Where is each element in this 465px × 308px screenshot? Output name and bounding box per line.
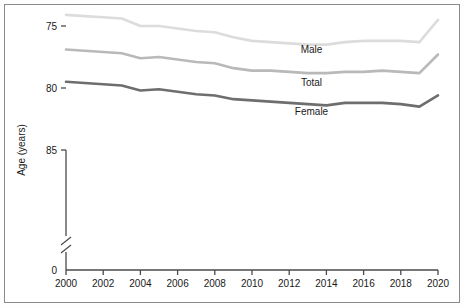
y-tick-label: 75 [46, 21, 58, 32]
line-chart: 0707580852000200220042006200820102012201… [0, 0, 465, 308]
series-line-male [66, 15, 438, 45]
x-tick-label: 2008 [204, 278, 227, 289]
x-tick-label: 2002 [92, 278, 115, 289]
y-tick-label: 85 [46, 145, 58, 156]
x-tick-label: 2006 [166, 278, 189, 289]
series-label-male: Male [301, 44, 323, 55]
y-tick-label: 0 [51, 265, 57, 276]
series-line-female [66, 82, 438, 107]
y-axis-break-mark-2 [61, 245, 71, 253]
x-tick-label: 2016 [352, 278, 375, 289]
x-tick-label: 2004 [129, 278, 152, 289]
y-axis-title: Age (years) [16, 124, 27, 176]
y-tick-label: 80 [46, 83, 58, 94]
series-label-female: Female [295, 106, 329, 117]
x-tick-label: 2020 [427, 278, 450, 289]
x-tick-label: 2018 [390, 278, 413, 289]
y-axis-break-mark-1 [61, 237, 71, 245]
x-tick-label: 2010 [241, 278, 264, 289]
series-line-total [66, 50, 438, 74]
x-tick-label: 2012 [278, 278, 301, 289]
x-tick-label: 2014 [315, 278, 338, 289]
series-label-total: Total [301, 77, 322, 88]
figure-container: 0707580852000200220042006200820102012201… [0, 0, 465, 308]
x-tick-label: 2000 [55, 278, 78, 289]
